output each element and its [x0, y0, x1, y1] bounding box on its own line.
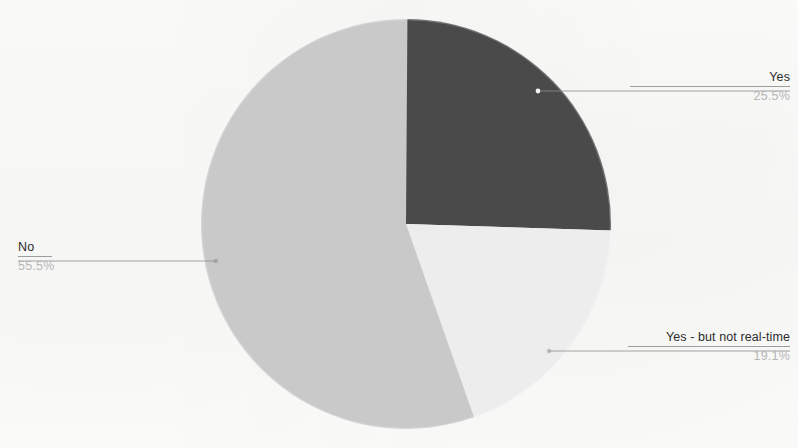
leader-dot-yes	[536, 89, 541, 94]
callout-rule-no	[18, 256, 52, 257]
callout-title-partial: Yes - but not real-time	[628, 330, 790, 345]
callout-value-partial: 19.1%	[628, 348, 790, 364]
callout-rule-yes	[630, 86, 790, 87]
callout-title-yes: Yes	[630, 70, 790, 85]
callout-label-no[interactable]: No 55.5%	[18, 240, 214, 274]
callout-label-yes[interactable]: Yes 25.5%	[630, 70, 790, 104]
pie-chart-figure	[0, 0, 798, 448]
pie-slice-yes[interactable]	[406, 19, 611, 230]
pie-slices	[201, 19, 611, 429]
callout-title-no: No	[18, 240, 214, 255]
callout-rule-partial	[628, 346, 790, 347]
callout-value-no: 55.5%	[18, 258, 214, 274]
callout-label-yes-but-not-real-time[interactable]: Yes - but not real-time 19.1%	[628, 330, 790, 364]
callout-value-yes: 25.5%	[630, 88, 790, 104]
pie-chart-page: Yes 25.5% No 55.5% Yes - but not real-ti…	[0, 0, 798, 448]
